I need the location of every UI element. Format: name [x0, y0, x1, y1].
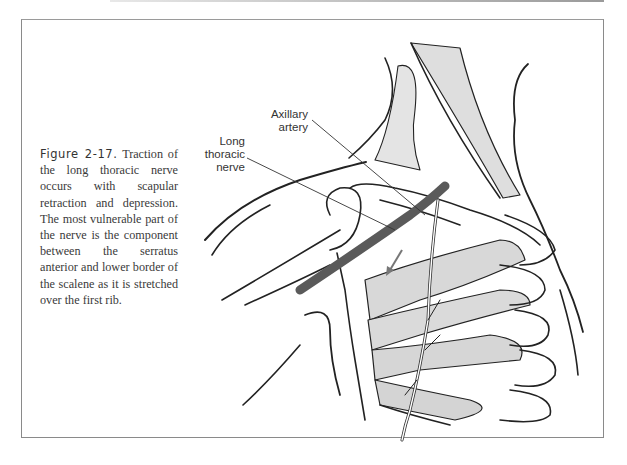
leader-line-long-thoracic-nerve [247, 158, 395, 230]
anatomical-illustration [0, 0, 627, 465]
